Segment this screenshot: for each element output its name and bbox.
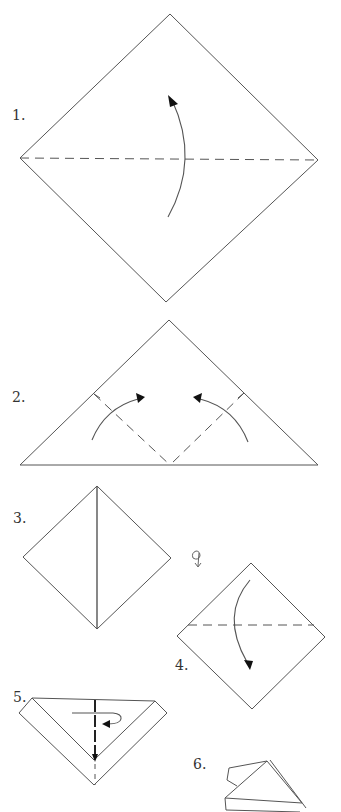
step-3-label: 3. bbox=[13, 510, 26, 526]
step-1-diamond bbox=[20, 14, 318, 302]
step-2-triangle bbox=[20, 320, 318, 465]
step-5-arrowhead-icon bbox=[102, 720, 110, 728]
step-6-label: 6. bbox=[193, 756, 206, 772]
step-1: 1. bbox=[12, 14, 318, 302]
step-2-left-arrow bbox=[92, 399, 138, 440]
step-2-left-arrowhead-icon bbox=[136, 393, 145, 403]
origami-diagram: 1. 2. 3. 4. 5. bbox=[0, 0, 341, 812]
step-2-right-arrowhead-icon bbox=[193, 393, 202, 403]
step-1-fold-arrow bbox=[168, 100, 185, 217]
step-4: 4. bbox=[175, 563, 325, 709]
step-5-top-edge bbox=[32, 698, 155, 701]
step-5-label: 5. bbox=[13, 689, 26, 705]
step-4-arrowhead-icon bbox=[244, 660, 253, 670]
step-1-label: 1. bbox=[12, 107, 25, 123]
step-6-right-edge bbox=[267, 761, 302, 803]
step-2-label: 2. bbox=[12, 389, 25, 405]
step-5: 5. bbox=[13, 689, 167, 785]
step-1-arrowhead-icon bbox=[168, 95, 178, 107]
step-2-right-tick bbox=[238, 393, 244, 398]
step-2: 2. bbox=[12, 320, 318, 465]
step-6-base-edge bbox=[225, 798, 302, 803]
step-3: 3. bbox=[13, 486, 201, 629]
step-6: 6. bbox=[193, 756, 306, 812]
step-5-fold-behind-arrow bbox=[72, 713, 121, 724]
step-5-fold-arrowhead-icon bbox=[92, 754, 98, 762]
step-4-fold-arrow bbox=[234, 580, 250, 662]
step-5-inner-v bbox=[32, 698, 155, 760]
step-2-left-valley-fold bbox=[94, 394, 170, 465]
turn-over-icon bbox=[192, 551, 201, 567]
step-2-right-arrow bbox=[200, 399, 248, 442]
step-2-right-valley-fold bbox=[170, 393, 244, 465]
step-1-valley-fold bbox=[20, 158, 318, 160]
step-4-diamond bbox=[177, 563, 325, 709]
step-4-label: 4. bbox=[175, 657, 188, 673]
step-6-left-edge bbox=[225, 761, 267, 798]
step-6-flap bbox=[227, 761, 267, 786]
